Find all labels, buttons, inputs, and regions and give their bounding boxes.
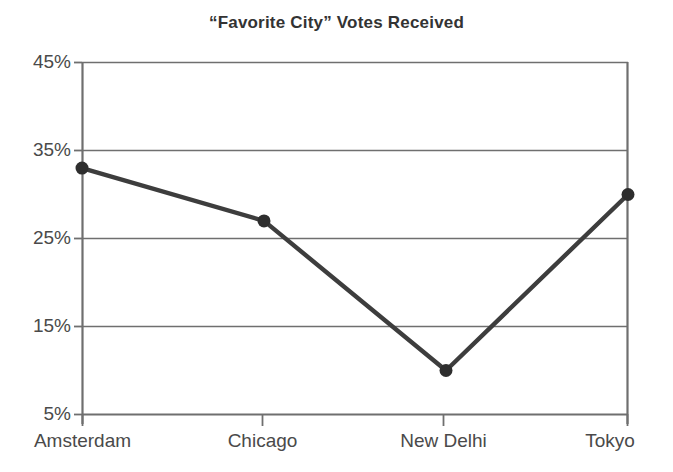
line-chart: “Favorite City” Votes Received 45% xyxy=(0,0,673,472)
y-tick-label-25: 25% xyxy=(0,227,71,249)
y-tick-label-35: 35% xyxy=(0,139,71,161)
y-tick-label-15: 15% xyxy=(0,315,71,337)
y-tick-label-45: 45% xyxy=(0,51,71,73)
data-point-tokyo xyxy=(622,188,635,201)
x-tick-label-amsterdam: Amsterdam xyxy=(10,430,155,452)
data-line-votes-received xyxy=(82,168,628,370)
y-tick-label-5: 5% xyxy=(0,403,71,425)
data-point-amsterdam xyxy=(76,162,89,175)
plot-area xyxy=(0,0,673,472)
data-point-new-delhi xyxy=(440,364,453,377)
x-tick-label-new-delhi: New Delhi xyxy=(371,430,516,452)
data-point-chicago xyxy=(258,214,271,227)
x-tick-label-tokyo: Tokyo xyxy=(551,430,669,452)
x-tick-label-chicago: Chicago xyxy=(190,430,335,452)
